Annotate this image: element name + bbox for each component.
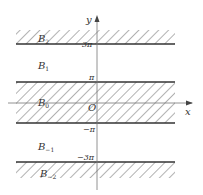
x-axis-label: x — [185, 106, 191, 117]
tick-3pi: 3π — [82, 40, 93, 49]
region-label-b1: B1 — [37, 60, 49, 72]
tick-neg-3pi: −3π — [77, 153, 95, 162]
origin-label: O — [88, 102, 96, 113]
y-axis-arrow-icon — [95, 15, 100, 22]
diagram-canvas: y x O 3π π −π −3π B2 B1 B0 B−1 B−2 — [0, 0, 203, 195]
y-axis-label: y — [85, 14, 92, 25]
region-label-bneg1: B−1 — [37, 141, 54, 153]
strip-diagram: y x O 3π π −π −3π B2 B1 B0 B−1 B−2 — [0, 0, 203, 195]
tick-pi: π — [88, 73, 95, 82]
tick-neg-pi: −π — [83, 125, 96, 134]
x-axis-arrow-icon — [186, 101, 193, 106]
